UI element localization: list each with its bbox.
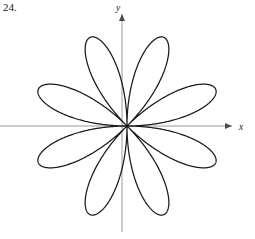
y-axis-label: y	[115, 3, 121, 13]
x-axis-arrow-icon	[225, 123, 232, 129]
polar-plot: x y	[0, 0, 255, 239]
axes-group	[0, 14, 232, 232]
x-axis-label: x	[238, 122, 244, 132]
y-axis-arrow-icon	[119, 14, 125, 21]
figure-container: 24. x y	[0, 0, 255, 239]
